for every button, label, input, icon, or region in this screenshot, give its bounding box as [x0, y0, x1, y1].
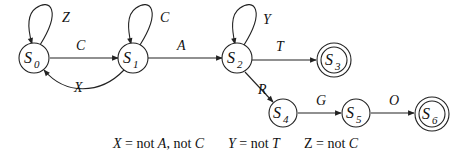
label-a: A — [176, 38, 186, 53]
svg-text:2: 2 — [237, 58, 243, 70]
label-c-s1: C — [160, 10, 170, 25]
svg-text:S: S — [325, 51, 333, 68]
label-y: Y — [263, 12, 273, 27]
svg-text:4: 4 — [283, 113, 289, 125]
label-t: T — [276, 39, 285, 54]
state-s0: S 0 — [19, 43, 49, 73]
svg-text:S: S — [422, 105, 430, 122]
svg-text:S: S — [346, 104, 354, 121]
svg-text:S: S — [273, 104, 281, 121]
state-s2: S 2 — [222, 43, 252, 73]
svg-text:S: S — [123, 49, 131, 66]
state-s1: S 1 — [118, 43, 148, 73]
legend-x: X = not A, not C — [113, 136, 204, 152]
svg-text:6: 6 — [432, 114, 438, 126]
label-c-s0-s1: C — [76, 38, 86, 53]
svg-text:0: 0 — [34, 58, 40, 70]
state-s6-accepting: S 6 — [415, 97, 449, 131]
svg-text:S: S — [227, 49, 235, 66]
edge-s1-s0 — [44, 70, 124, 89]
edge-s2-s2 — [233, 5, 257, 45]
label-r: R — [257, 82, 267, 97]
svg-text:1: 1 — [133, 58, 139, 70]
legend-z: Z = not C — [304, 136, 358, 152]
label-z: Z — [62, 10, 70, 25]
svg-text:3: 3 — [334, 60, 341, 72]
label-x: X — [73, 80, 83, 95]
edge-s1-s1 — [129, 5, 153, 45]
label-g: G — [316, 93, 326, 108]
state-s3-accepting: S 3 — [317, 43, 351, 77]
legend-y: Y = not T — [228, 136, 280, 152]
edge-s0-s0 — [29, 5, 52, 45]
state-s5: S 5 — [342, 99, 370, 127]
state-s4: S 4 — [269, 99, 297, 127]
svg-text:5: 5 — [356, 113, 362, 125]
label-o: O — [389, 93, 399, 108]
svg-text:S: S — [24, 49, 32, 66]
